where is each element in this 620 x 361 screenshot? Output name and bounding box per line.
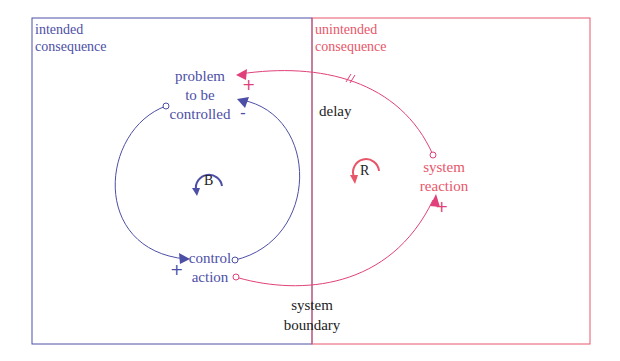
- boundary-line1: system: [276, 295, 348, 315]
- intended-label-line2: consequence: [35, 38, 107, 55]
- link-control-to-reaction: [239, 200, 433, 286]
- reinforcing-loop-label: R: [360, 162, 369, 179]
- delay-label: delay: [319, 103, 351, 120]
- reaction-line2: reaction: [414, 177, 474, 196]
- problem-line1: problem: [164, 67, 236, 86]
- node-problem-to-be-controlled: problem to be controlled: [164, 67, 236, 124]
- system-boundary-label: system boundary: [276, 295, 348, 335]
- unintended-label-line2: consequence: [315, 38, 387, 55]
- control-line2: action: [186, 268, 234, 287]
- unintended-label-line1: unintended: [315, 21, 387, 38]
- boundary-line2: boundary: [276, 315, 348, 335]
- node-control-action: control action: [186, 249, 234, 287]
- link-control-to-problem: [235, 100, 300, 260]
- problem-line2: to be: [164, 86, 236, 105]
- balancing-loop-label: B: [204, 172, 213, 189]
- node-system-reaction: system reaction: [414, 158, 474, 196]
- reaction-line1: system: [414, 158, 474, 177]
- svg-text:+: +: [242, 75, 255, 94]
- unintended-region-label: unintended consequence: [315, 21, 387, 55]
- svg-text:-: -: [240, 103, 246, 122]
- svg-text:+: +: [435, 197, 448, 216]
- svg-text:+: +: [170, 260, 183, 279]
- intended-region-label: intended consequence: [35, 21, 107, 55]
- problem-line3: controlled: [164, 105, 236, 124]
- intended-label-line1: intended: [35, 21, 107, 38]
- control-line1: control: [186, 249, 234, 268]
- link-problem-to-control: [115, 106, 186, 259]
